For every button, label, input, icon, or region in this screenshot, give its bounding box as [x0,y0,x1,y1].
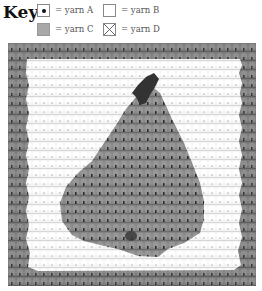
yarn-c-swatch [37,23,50,36]
yarn-d-swatch [103,23,116,36]
key-title: Key [3,2,39,22]
yarn-a-swatch [37,4,50,17]
yarn-a-label: = yarn A [55,5,93,15]
yarn-c-label: = yarn C [55,24,93,34]
yarn-b-swatch [103,4,116,17]
pear-blossom-spot [125,231,137,241]
yarn-b-label: = yarn B [121,5,159,15]
crochet-swatch-photo [8,43,256,286]
legend-key: Key = yarn A = yarn B = yarn C = yarn D [0,0,262,42]
pear-motif-image [8,43,256,286]
dot-icon [42,9,46,13]
x-icon [103,23,116,36]
yarn-d-label: = yarn D [121,24,160,34]
